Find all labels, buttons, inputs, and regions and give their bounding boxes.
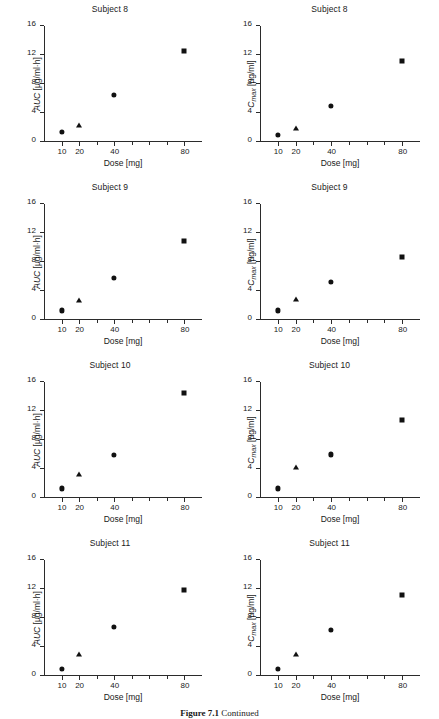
y-axis-tick-label: 0 (248, 135, 252, 144)
figure-caption-text: Continued (221, 708, 259, 718)
x-axis-title: Dose [mg] (260, 514, 420, 524)
x-axis-tick-label: 40 (327, 681, 336, 690)
panel-title: Subject 10 (220, 360, 439, 370)
x-axis-tick-label: 80 (398, 503, 407, 512)
x-axis-line (44, 675, 202, 676)
x-axis-title: Dose [mg] (44, 514, 202, 524)
y-axis-tick: 16 (256, 559, 260, 560)
x-axis-minor-tick (384, 320, 385, 323)
x-axis-tick-label: 10 (58, 681, 67, 690)
y-axis-tick-label: 16 (27, 197, 36, 206)
x-axis-tick: 20 (296, 142, 297, 146)
plot-panel-subject-11-auc: Subject 11048121610204080Dose [mg]AUC [µ… (0, 534, 220, 712)
x-axis-tick: 80 (402, 676, 403, 680)
x-axis-tick: 40 (331, 142, 332, 146)
panel-row: Subject 11048121610204080Dose [mg]AUC [µ… (0, 534, 439, 712)
y-axis-title-symbol: C (246, 102, 256, 108)
data-point-marker (59, 486, 64, 491)
y-axis-tick: 12 (40, 588, 44, 589)
data-point-marker (182, 390, 187, 395)
y-axis-line (44, 560, 45, 676)
y-axis-tick-label: 16 (243, 19, 252, 28)
data-point-marker (275, 132, 280, 137)
x-axis-tick-label: 10 (274, 503, 283, 512)
panel-title: Subject 10 (0, 360, 220, 370)
data-point-marker (76, 652, 82, 657)
y-axis-title: AUC [µg/ml·h] (32, 413, 42, 467)
x-axis-line (44, 497, 202, 498)
figure-caption: Figure 7.1 Continued (0, 708, 439, 719)
x-axis-title: Dose [mg] (260, 692, 420, 702)
data-point-marker (112, 453, 117, 458)
x-axis-title: Dose [mg] (44, 336, 202, 346)
figure-caption-number: Figure 7.1 (180, 708, 219, 718)
data-point-marker (275, 667, 280, 672)
x-axis-tick-label: 10 (58, 147, 67, 156)
plot-panel-subject-10-auc: Subject 10048121610204080Dose [mg]AUC [µ… (0, 356, 220, 534)
y-axis-tick-label: 0 (32, 135, 36, 144)
x-axis-tick-label: 20 (292, 503, 301, 512)
data-point-marker (400, 254, 405, 259)
y-axis-title-subscript: max (250, 622, 257, 635)
x-axis-tick-label: 80 (398, 681, 407, 690)
x-axis-tick-label: 40 (327, 325, 336, 334)
x-axis-tick: 10 (62, 498, 63, 502)
data-point-marker (329, 280, 334, 285)
data-point-marker (275, 486, 280, 491)
x-axis-tick-label: 40 (110, 503, 119, 512)
x-axis-minor-tick (167, 320, 168, 323)
x-axis-tick: 80 (184, 498, 185, 502)
data-point-marker (329, 103, 334, 108)
x-axis-tick-label: 80 (398, 147, 407, 156)
y-axis-tick: 4 (40, 112, 44, 113)
y-axis-tick-label: 16 (27, 19, 36, 28)
x-axis-tick: 10 (278, 676, 279, 680)
x-axis-minor-tick (132, 498, 133, 501)
x-axis-tick: 40 (114, 498, 115, 502)
y-axis-title-units: [µg/ml·h] (32, 57, 42, 93)
x-axis-tick: 10 (278, 142, 279, 146)
plot-panel-subject-8-auc: Subject 8048121610204080Dose [mg]AUC [µg… (0, 0, 220, 178)
y-axis-title-units: [µg/ml] (246, 60, 256, 88)
plot-area: 048121610204080Dose [mg]Cmax [µg/ml] (260, 382, 420, 498)
x-axis-minor-tick (384, 142, 385, 145)
plot-area: 048121610204080Dose [mg]Cmax [µg/ml] (260, 204, 420, 320)
y-axis-title-subscript: max (250, 88, 257, 101)
x-axis-minor-tick (313, 676, 314, 679)
x-axis-minor-tick (149, 320, 150, 323)
x-axis-minor-tick (149, 142, 150, 145)
data-point-marker (329, 628, 334, 633)
y-axis-tick: 16 (256, 381, 260, 382)
panel-title: Subject 8 (0, 4, 220, 14)
x-axis-minor-tick (132, 320, 133, 323)
y-axis-title-units: [µg/ml·h] (32, 413, 42, 449)
x-axis-minor-tick (367, 498, 368, 501)
data-point-marker (329, 452, 334, 457)
x-axis-tick: 20 (79, 142, 80, 146)
x-axis-minor-tick (349, 498, 350, 501)
y-axis-tick: 4 (40, 468, 44, 469)
x-axis-minor-tick (349, 142, 350, 145)
y-axis-line (260, 382, 261, 498)
x-axis-minor-tick (97, 320, 98, 323)
y-axis-tick: 4 (40, 646, 44, 647)
plot-area: 048121610204080Dose [mg]AUC [µg/ml·h] (44, 26, 202, 142)
x-axis-minor-tick (313, 498, 314, 501)
x-axis-tick: 10 (62, 676, 63, 680)
x-axis-tick-label: 20 (75, 325, 84, 334)
data-point-marker (400, 592, 405, 597)
x-axis-title: Dose [mg] (260, 336, 420, 346)
x-axis-tick: 20 (296, 320, 297, 324)
x-axis-tick: 40 (331, 320, 332, 324)
y-axis-tick: 12 (40, 232, 44, 233)
y-axis-tick-label: 16 (243, 375, 252, 384)
y-axis-tick: 0 (256, 497, 260, 498)
panel-title: Subject 11 (0, 538, 220, 548)
x-axis-tick-label: 40 (110, 325, 119, 334)
data-point-marker (182, 238, 187, 243)
y-axis-tick: 0 (256, 675, 260, 676)
y-axis-tick: 4 (256, 468, 260, 469)
plot-area: 048121610204080Dose [mg]AUC [µg/ml·h] (44, 382, 202, 498)
y-axis-tick-label: 16 (27, 375, 36, 384)
